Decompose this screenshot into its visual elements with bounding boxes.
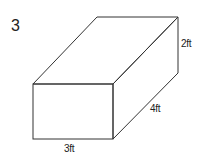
front-face — [33, 84, 113, 139]
side-face — [113, 17, 178, 139]
top-face — [33, 17, 178, 84]
height-label: 2ft — [181, 38, 191, 49]
width-label: 3ft — [64, 143, 74, 154]
problem-number: 3 — [11, 17, 20, 35]
diagram-canvas: 3 2ft 4ft 3ft — [0, 0, 201, 166]
rectangular-prism-figure — [0, 0, 201, 166]
depth-label: 4ft — [150, 103, 160, 114]
